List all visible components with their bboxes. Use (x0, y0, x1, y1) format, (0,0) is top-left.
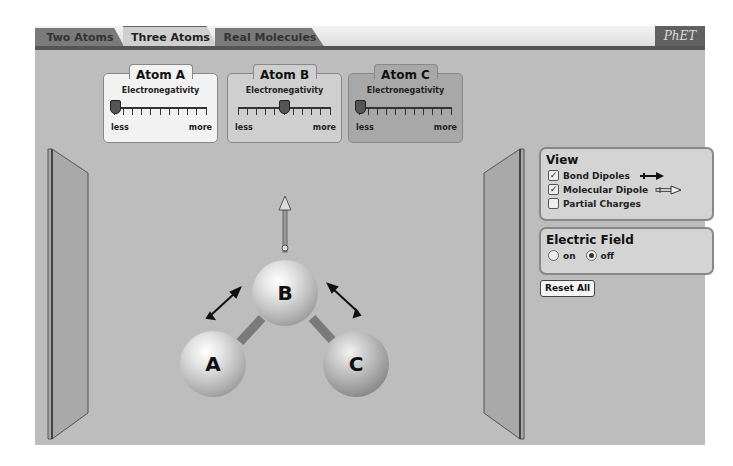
view-panel-title: View (546, 153, 712, 167)
partial-charges-checkbox[interactable] (548, 198, 559, 209)
tab-bar: Two Atoms Three Atoms Real Molecules (35, 26, 705, 48)
bond-a-b (240, 318, 262, 342)
atom-a-electronegativity-panel: Atom A Electronegativity less more (103, 73, 218, 143)
electronegativity-label: Electronegativity (104, 86, 217, 95)
bond-dipoles-checkbox[interactable]: ✓ (548, 170, 559, 181)
tab-real-molecules[interactable]: Real Molecules (215, 28, 325, 48)
electronegativity-label: Electronegativity (349, 86, 462, 95)
positive-plate (480, 145, 530, 445)
bond-b-c (312, 318, 332, 340)
more-label: more (189, 123, 212, 132)
phet-logo[interactable]: PhET (655, 26, 705, 46)
molecular-dipole-option[interactable]: ✓ Molecular Dipole (548, 183, 712, 196)
atom-b-electronegativity-panel: Atom B Electronegativity less more (227, 73, 342, 143)
atom-c-electronegativity-panel: Atom C Electronegativity less more (348, 73, 463, 143)
atom-b-title: Atom B (228, 68, 341, 82)
molecular-dipole-checkbox[interactable]: ✓ (548, 184, 559, 195)
electric-field-off-label: off (601, 251, 614, 261)
molecular-dipole-arrow-icon (654, 185, 682, 195)
tab-two-atoms[interactable]: Two Atoms (35, 28, 125, 48)
partial-charges-label: Partial Charges (563, 199, 641, 209)
more-label: more (434, 123, 457, 132)
electric-field-panel: Electric Field on off (539, 227, 714, 275)
electric-field-on-radio[interactable] (548, 250, 559, 261)
partial-charges-option[interactable]: Partial Charges (548, 197, 712, 210)
electronegativity-slider-thumb[interactable] (110, 100, 121, 114)
atom-c-title: Atom C (349, 68, 462, 82)
electronegativity-slider-thumb[interactable] (279, 100, 290, 114)
electric-field-title: Electric Field (546, 233, 712, 247)
view-panel: View ✓ Bond Dipoles ✓ Molecular Dipole P… (539, 147, 714, 221)
more-label: more (313, 123, 336, 132)
less-label: less (111, 123, 129, 132)
negative-plate (40, 145, 90, 445)
atom-c[interactable]: C (323, 331, 389, 397)
molecular-dipole-label: Molecular Dipole (563, 185, 648, 195)
electronegativity-slider-thumb[interactable] (355, 100, 366, 114)
less-label: less (356, 123, 374, 132)
bond-dipoles-label: Bond Dipoles (563, 171, 630, 181)
atom-b[interactable]: B (252, 260, 318, 326)
electric-field-off-radio[interactable] (586, 250, 597, 261)
electric-field-on-label: on (563, 251, 576, 261)
atom-a[interactable]: A (180, 331, 246, 397)
less-label: less (235, 123, 253, 132)
bond-dipole-arrow-icon (638, 171, 664, 181)
molecular-dipole-arrow-icon (279, 196, 291, 252)
electronegativity-label: Electronegativity (228, 86, 341, 95)
atom-a-title: Atom A (104, 68, 217, 82)
bond-dipoles-option[interactable]: ✓ Bond Dipoles (548, 169, 712, 182)
reset-all-button[interactable]: Reset All (540, 280, 595, 297)
